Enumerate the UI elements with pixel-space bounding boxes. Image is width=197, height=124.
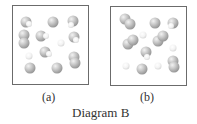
gray-atom-sphere xyxy=(70,58,81,69)
white-atom-sphere xyxy=(144,54,150,60)
white-atom-sphere xyxy=(140,32,147,39)
figure-caption: Diagram B xyxy=(72,105,129,121)
white-atom-sphere xyxy=(168,23,174,29)
gray-atom-sphere xyxy=(150,18,161,29)
white-atom-sphere xyxy=(26,21,32,27)
gray-atom-sphere xyxy=(52,63,63,74)
gray-atom-sphere xyxy=(137,64,148,75)
gray-atom-sphere xyxy=(48,17,59,28)
white-atom-sphere xyxy=(26,53,33,60)
gray-atom-sphere xyxy=(25,63,36,74)
white-atom-sphere xyxy=(170,45,177,52)
panel-b-label: (b) xyxy=(140,90,154,105)
white-atom-sphere xyxy=(68,22,74,28)
white-atom-sphere xyxy=(43,33,49,39)
gray-atom-sphere xyxy=(158,31,169,42)
gray-atom-sphere xyxy=(128,35,139,46)
gray-atom-sphere xyxy=(125,19,136,30)
white-atom-sphere xyxy=(155,63,162,70)
gray-atom-sphere xyxy=(19,38,30,49)
white-atom-sphere xyxy=(123,63,130,70)
white-atom-sphere xyxy=(73,37,79,43)
gray-atom-sphere xyxy=(169,62,180,73)
panel-a-label: (a) xyxy=(42,90,55,105)
white-atom-sphere xyxy=(46,51,52,57)
white-atom-sphere xyxy=(58,40,65,47)
